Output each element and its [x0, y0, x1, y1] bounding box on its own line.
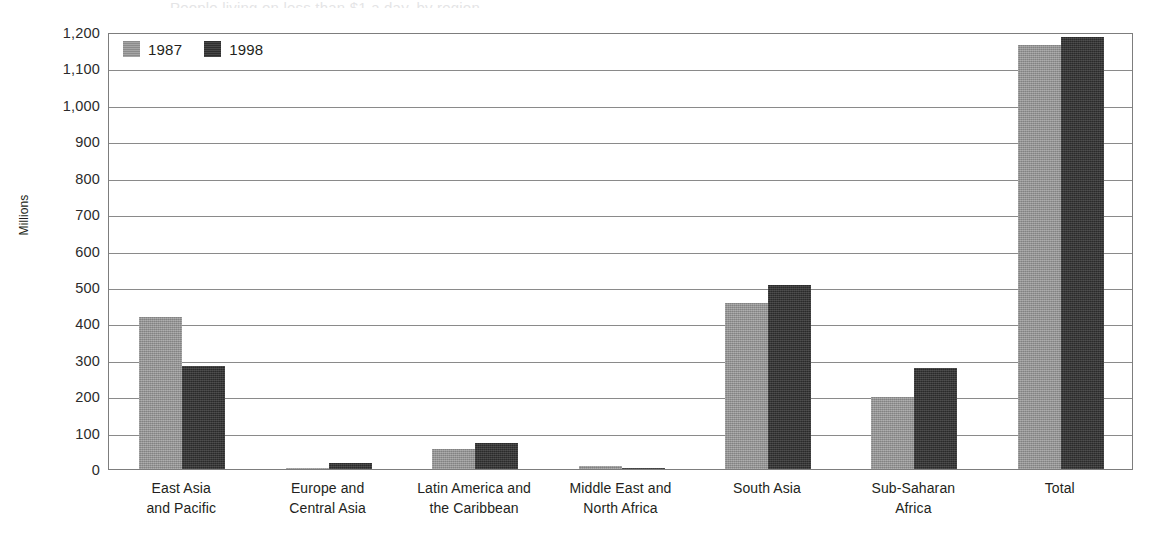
bar-1987 — [579, 466, 622, 469]
bar-1987 — [139, 317, 182, 469]
y-tick-label: 200 — [8, 390, 100, 404]
legend-swatch-1998 — [204, 41, 221, 57]
bar-1987 — [725, 303, 768, 469]
bar-group — [871, 34, 957, 469]
y-tick-label: 600 — [8, 245, 100, 259]
x-tick-label-line: Latin America and — [401, 478, 547, 498]
x-tick-label-line: Sub-Saharan — [840, 478, 986, 498]
x-tick-label-line: Central Asia — [254, 498, 400, 518]
x-tick-label-line: the Caribbean — [401, 498, 547, 518]
legend-swatch-1987 — [123, 41, 140, 57]
bar-group — [1018, 34, 1104, 469]
plot-area: 19871998 — [108, 33, 1133, 470]
x-tick-label-line: Africa — [840, 498, 986, 518]
bar-1998 — [475, 443, 518, 469]
bar-1998 — [1061, 37, 1104, 469]
x-tick-label-line: Total — [987, 478, 1133, 498]
bar-1998 — [768, 285, 811, 469]
bar-group — [579, 34, 665, 469]
x-tick-label-line: East Asia — [108, 478, 254, 498]
bar-1998 — [329, 463, 372, 469]
bar-group — [139, 34, 225, 469]
y-tick-label: 900 — [8, 135, 100, 149]
y-tick-label: 0 — [8, 463, 100, 477]
x-tick-label-line: South Asia — [694, 478, 840, 498]
y-tick-label: 400 — [8, 317, 100, 331]
x-tick-label-line: and Pacific — [108, 498, 254, 518]
bar-group — [432, 34, 518, 469]
x-tick-label-line: Middle East and — [547, 478, 693, 498]
bar-1998 — [914, 368, 957, 469]
bar-group — [286, 34, 372, 469]
x-axis-category-labels: East Asiaand PacificEurope andCentral As… — [108, 478, 1133, 528]
bars-layer — [109, 34, 1132, 469]
x-tick-label: Total — [987, 478, 1133, 498]
bar-1987 — [1018, 45, 1061, 469]
bar-1987 — [871, 397, 914, 469]
x-tick-label: Latin America andthe Caribbean — [401, 478, 547, 518]
legend-label: 1998 — [229, 42, 263, 57]
x-tick-label: Sub-SaharanAfrica — [840, 478, 986, 518]
x-tick-label: East Asiaand Pacific — [108, 478, 254, 518]
y-tick-label: 1,200 — [8, 26, 100, 40]
x-tick-label: Middle East andNorth Africa — [547, 478, 693, 518]
x-tick-label-line: North Africa — [547, 498, 693, 518]
y-tick-label: 500 — [8, 281, 100, 295]
legend-label: 1987 — [148, 42, 182, 57]
y-tick-label: 300 — [8, 354, 100, 368]
y-axis-tick-labels: 01002003004005006007008009001,0001,1001,… — [8, 33, 100, 470]
x-tick-label-line: Europe and — [254, 478, 400, 498]
y-tick-label: 1,000 — [8, 99, 100, 113]
x-tick-label: South Asia — [694, 478, 840, 498]
legend-entry: 1987 — [123, 41, 182, 57]
bar-1998 — [622, 468, 665, 470]
bar-1998 — [182, 366, 225, 469]
x-tick-label: Europe andCentral Asia — [254, 478, 400, 518]
y-tick-label: 800 — [8, 172, 100, 186]
cropped-title-remnant: People living on less than $1 a day, by … — [170, 0, 870, 8]
bar-1987 — [432, 449, 475, 469]
y-tick-label: 700 — [8, 208, 100, 222]
bar-group — [725, 34, 811, 469]
legend-entry: 1998 — [204, 41, 263, 57]
bar-1987 — [286, 468, 329, 470]
y-tick-label: 100 — [8, 427, 100, 441]
bar-chart-figure: People living on less than $1 a day, by … — [0, 0, 1175, 551]
y-tick-label: 1,100 — [8, 62, 100, 76]
chart-legend: 19871998 — [123, 41, 263, 57]
